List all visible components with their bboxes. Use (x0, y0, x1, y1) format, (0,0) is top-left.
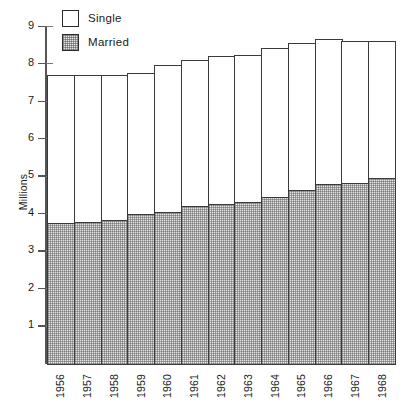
bar-segment-single (261, 48, 289, 198)
y-tick-6: 6 (38, 138, 46, 139)
bar-segment-single (154, 65, 182, 213)
bar-segment-married (47, 223, 75, 365)
bar-1968: 1968 (368, 27, 395, 364)
bar-1960: 1960 (154, 27, 181, 364)
x-tick-label: 1956 (54, 374, 66, 398)
bar-1962: 1962 (208, 27, 235, 364)
bar-segment-married (368, 178, 396, 365)
bar-segment-married (341, 183, 369, 366)
bar-segment-married (261, 197, 289, 366)
x-tick-label: 1959 (135, 374, 147, 398)
x-tick-label: 1963 (242, 374, 254, 398)
x-tick-label: 1966 (322, 374, 334, 398)
y-tick-label: 2 (28, 281, 34, 293)
bar-segment-single (341, 41, 369, 184)
y-tick-1: 1 (38, 325, 46, 326)
bar-segment-married (74, 222, 102, 365)
x-tick-label: 1957 (81, 374, 93, 398)
y-tick-9: 9 (38, 26, 46, 27)
y-tick-2: 2 (38, 288, 46, 289)
bar-segment-married (101, 220, 129, 365)
bar-segment-married (234, 202, 262, 365)
plot-area: 987654321 195619571958195919601961196219… (45, 27, 395, 364)
bar-segment-single (208, 56, 236, 205)
bar-1961: 1961 (181, 27, 208, 364)
bar-segment-single (234, 55, 262, 204)
x-tick-label: 1967 (349, 374, 361, 398)
stacked-bar-chart: Single Married Millions 987654321 195619… (0, 0, 409, 406)
bar-segment-married (315, 184, 343, 366)
y-tick-3: 3 (38, 250, 46, 251)
x-tick-label: 1961 (188, 374, 200, 398)
bar-1958: 1958 (101, 27, 128, 364)
bar-1963: 1963 (234, 27, 261, 364)
x-tick-label: 1960 (161, 374, 173, 398)
y-tick-label: 4 (28, 206, 34, 218)
y-axis-title: Millions (17, 152, 29, 232)
y-tick-7: 7 (38, 101, 46, 102)
bar-segment-married (208, 204, 236, 366)
bar-segment-single (74, 75, 102, 224)
bar-segment-single (181, 60, 209, 208)
y-tick-label: 7 (28, 94, 34, 106)
y-tick-label: 8 (28, 56, 34, 68)
bar-1956: 1956 (47, 27, 74, 364)
bar-1964: 1964 (261, 27, 288, 364)
y-tick-label: 3 (28, 243, 34, 255)
y-tick-label: 6 (28, 131, 34, 143)
bar-segment-single (47, 75, 75, 225)
bar-segment-married (127, 214, 155, 365)
bar-segment-married (181, 206, 209, 365)
y-tick-4: 4 (38, 213, 46, 214)
y-tick-5: 5 (38, 175, 46, 176)
bar-1957: 1957 (74, 27, 101, 364)
bar-1966: 1966 (315, 27, 342, 364)
y-tick-label: 9 (28, 19, 34, 31)
x-tick-label: 1962 (215, 374, 227, 398)
bar-segment-married (154, 212, 182, 366)
x-tick-label: 1958 (108, 374, 120, 398)
y-tick-label: 1 (28, 318, 34, 330)
bar-segment-single (315, 39, 343, 185)
y-tick-label: 5 (28, 168, 34, 180)
x-tick-label: 1965 (295, 374, 307, 398)
bar-group: 1956195719581959196019611962196319641965… (47, 27, 395, 364)
bar-1967: 1967 (341, 27, 368, 364)
bar-1959: 1959 (127, 27, 154, 364)
x-tick-label: 1964 (269, 374, 281, 398)
bar-segment-single (101, 75, 129, 222)
bar-segment-married (288, 190, 316, 365)
bar-1965: 1965 (288, 27, 315, 364)
legend-label-single: Single (88, 12, 122, 24)
y-tick-8: 8 (38, 63, 46, 64)
x-tick-label: 1968 (376, 374, 388, 398)
legend-item-single: Single (62, 8, 129, 28)
empty-square-icon (62, 10, 79, 27)
bar-segment-single (368, 41, 396, 180)
bar-segment-single (288, 43, 316, 191)
bar-segment-single (127, 73, 155, 216)
